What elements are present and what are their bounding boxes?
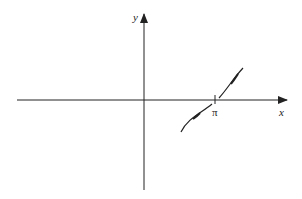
diagram-canvas: y x π bbox=[0, 0, 302, 199]
pi-label: π bbox=[212, 106, 218, 118]
arrow-down-icon bbox=[193, 113, 200, 119]
x-axis-label: x bbox=[278, 106, 284, 118]
y-axis-label: y bbox=[132, 11, 138, 23]
arrow-up-icon bbox=[231, 74, 238, 84]
curve-lower-segment bbox=[181, 104, 212, 132]
